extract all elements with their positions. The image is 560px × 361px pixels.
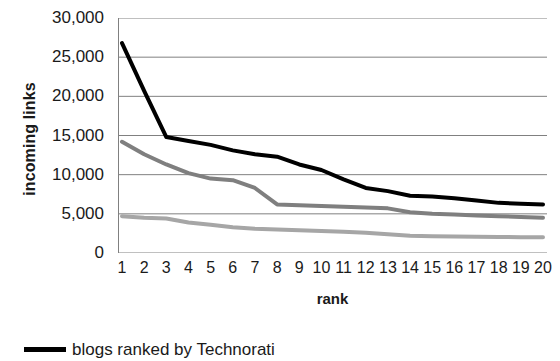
chart-legend: blogs ranked by Technorati [24, 338, 560, 361]
y-tick-label: 10,000 [22, 166, 104, 183]
y-tick-label: 0 [22, 244, 104, 261]
y-tick-label: 25,000 [22, 48, 104, 65]
x-axis-title: rank [118, 290, 547, 307]
legend-item[interactable]: blogs ranked by Technorati [24, 338, 560, 361]
y-tick-label: 5,000 [22, 205, 104, 222]
y-tick-label: 15,000 [22, 127, 104, 144]
series-line-3 [122, 216, 543, 237]
legend-swatch-icon [24, 347, 66, 352]
plot-area [118, 18, 547, 253]
x-tick-label: 20 [528, 258, 558, 278]
y-axis-tick-labels: 30,00025,00020,00015,00010,0005,0000 [22, 0, 104, 361]
y-tick-label: 30,000 [22, 9, 104, 26]
series-line-2 [122, 142, 543, 218]
chart-figure: incoming links 30,00025,00020,00015,0001… [0, 0, 560, 361]
series-line-1 [122, 43, 543, 204]
legend-label: blogs ranked by Technorati [72, 338, 275, 361]
plot-svg [118, 18, 547, 253]
x-axis-tick-labels: 1234567891011121314151617181920 [118, 258, 547, 284]
y-tick-label: 20,000 [22, 87, 104, 104]
